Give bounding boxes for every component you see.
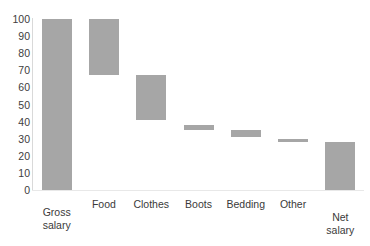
y-tick-label: 40 <box>4 116 30 127</box>
y-tick-label: 80 <box>4 48 30 59</box>
y-tick-label: 60 <box>4 82 30 93</box>
y-tick-label: 0 <box>4 185 30 196</box>
waterfall-chart: 1009080706050403020100 Gross salaryFoodC… <box>0 0 370 246</box>
y-tick-label: 90 <box>4 31 30 42</box>
bar-food <box>89 19 119 75</box>
x-tick-label-gross-salary: Gross salary <box>33 206 80 232</box>
y-tick-label: 100 <box>4 14 30 25</box>
x-tick-label-net-salary: Net salary <box>317 211 364 237</box>
bar-other <box>278 139 308 142</box>
x-tick-label-other: Other <box>269 198 316 211</box>
bar-clothes <box>136 75 166 119</box>
x-tick-label-clothes: Clothes <box>128 198 175 211</box>
y-tick-label: 30 <box>4 133 30 144</box>
y-tick-label: 10 <box>4 167 30 178</box>
bar-bedding <box>231 130 261 137</box>
bar-net-salary <box>325 142 355 190</box>
bar-gross-salary <box>42 19 72 190</box>
bar-boots <box>184 125 214 130</box>
y-tick-label: 20 <box>4 150 30 161</box>
x-tick-label-bedding: Bedding <box>222 198 269 211</box>
plot-area: Gross salaryFoodClothesBootsBeddingOther… <box>33 0 364 246</box>
x-tick-label-food: Food <box>80 198 127 211</box>
x-tick-label-boots: Boots <box>175 198 222 211</box>
y-axis-tick-labels: 1009080706050403020100 <box>0 0 30 246</box>
y-tick-label: 70 <box>4 65 30 76</box>
y-tick-label: 50 <box>4 99 30 110</box>
